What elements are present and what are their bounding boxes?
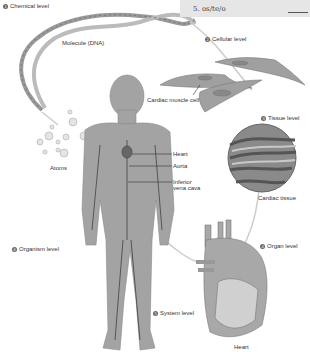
levels-of-organization-illustration <box>0 0 310 358</box>
level-label: System level <box>160 310 194 316</box>
label-aorta: Aorta <box>173 163 187 169</box>
label-cardiac-tissue: Cardiac tissue <box>258 195 296 201</box>
level-label: Organ level <box>267 243 298 249</box>
level-number-badge: 4 <box>260 244 265 249</box>
atoms-cluster <box>37 110 88 157</box>
cardiac-muscle-cells <box>160 58 305 112</box>
level-system: 5System level <box>153 310 194 316</box>
label-heart: Heart <box>173 151 188 157</box>
level-chemical: 1Chemical level <box>3 3 49 9</box>
level-number-badge: 6 <box>12 247 17 252</box>
level-label: Tissue level <box>268 115 299 121</box>
label-molecule: Molecule (DNA) <box>62 40 104 46</box>
label-cardiac-muscle-cell: Cardiac muscle cell <box>147 97 199 103</box>
level-tissue: 3Tissue level <box>261 115 299 121</box>
dna-helix <box>21 15 195 110</box>
quiz-item: 5. os/te/o <box>193 5 226 13</box>
label-inferior-vena-cava: Inferior vena cava <box>173 179 205 191</box>
label-heart-organ: Heart <box>234 344 249 350</box>
heart-organ <box>196 220 267 337</box>
level-organism: 6Organism level <box>12 246 59 252</box>
level-label: Chemical level <box>10 3 49 9</box>
level-cellular: 2Cellular level <box>205 36 246 42</box>
level-organ: 4Organ level <box>260 243 298 249</box>
quiz-box: 5. os/te/o <box>180 0 310 17</box>
label-atoms: Atoms <box>50 165 67 171</box>
level-number-badge: 1 <box>3 4 8 9</box>
answer-blank <box>288 12 308 13</box>
level-number-badge: 2 <box>205 37 210 42</box>
level-label: Cellular level <box>212 36 246 42</box>
level-number-badge: 5 <box>153 311 158 316</box>
cardiac-tissue-circle <box>228 124 296 192</box>
level-label: Organism level <box>19 246 59 252</box>
level-number-badge: 3 <box>261 116 266 121</box>
